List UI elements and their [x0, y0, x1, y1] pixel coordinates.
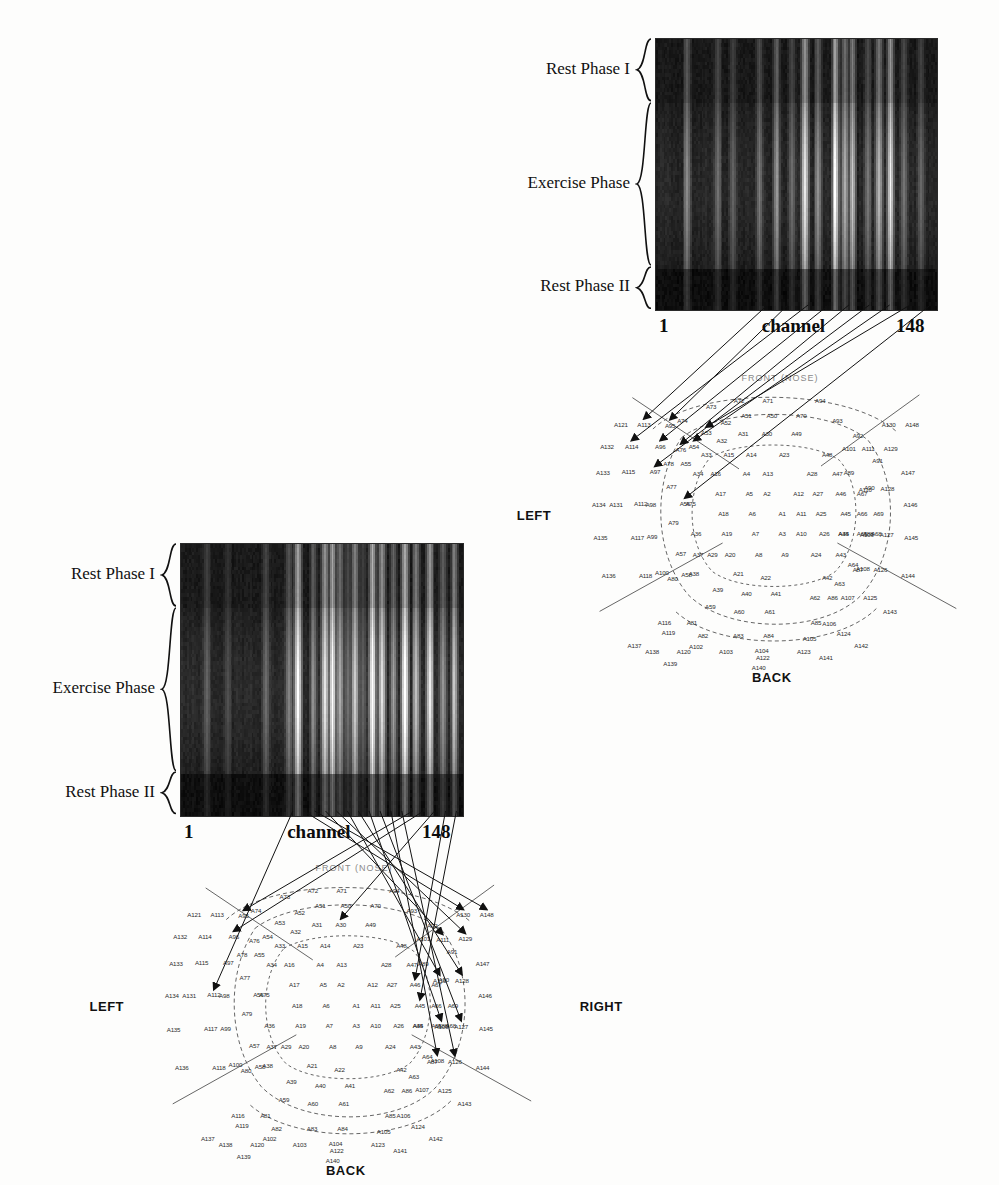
electrode-label-a58[interactable]: A58 — [681, 571, 691, 578]
electrode-label-a63[interactable]: A63 — [834, 580, 844, 587]
electrode-label-a23[interactable]: A23 — [353, 941, 363, 948]
electrode-label-a48[interactable]: A48 — [396, 941, 406, 948]
electrode-label-a32[interactable]: A32 — [290, 928, 300, 935]
electrode-label-a60[interactable]: A60 — [734, 607, 744, 614]
electrode-label-a94[interactable]: A94 — [389, 887, 399, 894]
electrode-label-a89[interactable]: A89 — [844, 468, 854, 475]
electrode-label-a118[interactable]: A118 — [639, 571, 652, 578]
electrode-label-a14[interactable]: A14 — [320, 941, 330, 948]
electrode-label-a26[interactable]: A26 — [393, 1021, 403, 1028]
upper-heatmap[interactable] — [655, 38, 938, 311]
electrode-label-a25[interactable]: A25 — [390, 1001, 400, 1008]
electrode-label-a36[interactable]: A36 — [264, 1021, 274, 1028]
electrode-label-a72[interactable]: A72 — [734, 396, 744, 403]
electrode-label-a148[interactable]: A148 — [905, 420, 919, 427]
electrode-label-a120[interactable]: A120 — [250, 1141, 264, 1148]
electrode-label-a130[interactable]: A130 — [456, 911, 470, 918]
electrode-label-a79[interactable]: A79 — [242, 1010, 252, 1017]
electrode-label-a6[interactable]: A6 — [749, 510, 756, 517]
electrode-label-a71[interactable]: A71 — [336, 887, 346, 894]
electrode-label-a101[interactable]: A101 — [842, 444, 856, 451]
electrode-label-a13[interactable]: A13 — [762, 470, 772, 477]
electrode-label-a31[interactable]: A31 — [738, 430, 748, 437]
electrode-label-a143[interactable]: A143 — [458, 1100, 472, 1107]
electrode-label-a12[interactable]: A12 — [793, 490, 803, 497]
electrode-label-a6[interactable]: A6 — [322, 1001, 329, 1008]
electrode-label-a50[interactable]: A50 — [341, 902, 351, 909]
electrode-label-a79[interactable]: A79 — [668, 518, 678, 525]
electrode-label-a117[interactable]: A117 — [204, 1025, 217, 1032]
electrode-label-a102[interactable]: A102 — [263, 1135, 277, 1142]
electrode-label-a91[interactable]: A91 — [447, 948, 457, 955]
electrode-label-a47[interactable]: A47 — [406, 961, 416, 968]
electrode-label-a48[interactable]: A48 — [822, 451, 832, 458]
electrode-label-a42[interactable]: A42 — [822, 574, 832, 581]
electrode-label-a102[interactable]: A102 — [689, 642, 703, 649]
electrode-label-a107[interactable]: A107 — [415, 1085, 429, 1092]
electrode-label-a80[interactable]: A80 — [667, 574, 677, 581]
electrode-label-a81[interactable]: A81 — [687, 619, 697, 626]
electrode-label-a97[interactable]: A97 — [650, 468, 660, 475]
electrode-label-a99[interactable]: A99 — [220, 1024, 230, 1031]
electrode-label-a115[interactable]: A115 — [622, 468, 635, 475]
electrode-label-a80[interactable]: A80 — [241, 1066, 251, 1073]
electrode-label-a100[interactable]: A100 — [655, 568, 669, 575]
electrode-label-a62[interactable]: A62 — [384, 1086, 394, 1093]
electrode-label-a59[interactable]: A59 — [705, 603, 715, 610]
electrode-label-a29[interactable]: A29 — [707, 551, 717, 558]
electrode-label-a40[interactable]: A40 — [315, 1082, 325, 1089]
electrode-label-a40[interactable]: A40 — [741, 589, 751, 596]
electrode-label-a86[interactable]: A86 — [402, 1086, 412, 1093]
electrode-label-a105[interactable]: A105 — [377, 1128, 391, 1135]
electrode-label-a20[interactable]: A20 — [725, 551, 735, 558]
electrode-label-a29[interactable]: A29 — [281, 1043, 291, 1050]
electrode-label-a61[interactable]: A61 — [338, 1100, 348, 1107]
electrode-label-a148[interactable]: A148 — [480, 911, 494, 918]
electrode-label-a85[interactable]: A85 — [811, 619, 821, 626]
electrode-label-a89[interactable]: A89 — [418, 959, 428, 966]
electrode-label-a45[interactable]: A45 — [415, 1001, 425, 1008]
electrode-label-a103[interactable]: A103 — [719, 647, 733, 654]
electrode-label-a93[interactable]: A93 — [406, 907, 416, 914]
electrode-label-a135[interactable]: A135 — [167, 1026, 181, 1033]
electrode-label-a111[interactable]: A111 — [436, 936, 449, 943]
electrode-label-a19[interactable]: A19 — [295, 1021, 305, 1028]
electrode-label-a106[interactable]: A106 — [822, 619, 836, 626]
electrode-label-a77[interactable]: A77 — [240, 974, 250, 981]
electrode-label-a12[interactable]: A12 — [367, 981, 377, 988]
electrode-label-a53[interactable]: A53 — [275, 919, 285, 926]
electrode-label-a33[interactable]: A33 — [701, 451, 711, 458]
electrode-label-a126[interactable]: A126 — [448, 1057, 462, 1064]
electrode-label-a99[interactable]: A99 — [647, 532, 657, 539]
electrode-label-a28[interactable]: A28 — [807, 470, 817, 477]
electrode-label-a107[interactable]: A107 — [841, 593, 855, 600]
electrode-label-a97[interactable]: A97 — [223, 959, 233, 966]
electrode-label-a105[interactable]: A105 — [803, 635, 817, 642]
electrode-label-a122[interactable]: A122 — [330, 1147, 344, 1154]
electrode-label-a59[interactable]: A59 — [279, 1095, 289, 1102]
electrode-label-a52[interactable]: A52 — [721, 418, 731, 425]
electrode-label-a135[interactable]: A135 — [594, 534, 608, 541]
electrode-label-a60[interactable]: A60 — [308, 1100, 318, 1107]
electrode-label-a39[interactable]: A39 — [712, 585, 722, 592]
electrode-label-a138[interactable]: A138 — [645, 648, 659, 655]
electrode-label-a116[interactable]: A116 — [231, 1111, 244, 1118]
electrode-label-a66[interactable]: A66 — [431, 1001, 441, 1008]
electrode-label-a49[interactable]: A49 — [791, 430, 801, 437]
electrode-label-a22[interactable]: A22 — [334, 1066, 344, 1073]
electrode-label-a49[interactable]: A49 — [365, 920, 375, 927]
electrode-label-a85[interactable]: A85 — [385, 1111, 395, 1118]
electrode-label-a117[interactable]: A117 — [631, 533, 644, 540]
electrode-label-a112[interactable]: A112 — [207, 991, 220, 998]
electrode-label-a1[interactable]: A1 — [352, 1001, 359, 1008]
electrode-label-a110[interactable]: A110 — [433, 977, 446, 984]
electrode-label-a141[interactable]: A141 — [393, 1147, 407, 1154]
electrode-label-a147[interactable]: A147 — [476, 960, 490, 967]
electrode-label-a46[interactable]: A46 — [835, 490, 845, 497]
electrode-label-a9[interactable]: A9 — [781, 551, 788, 558]
electrode-label-a55[interactable]: A55 — [254, 951, 264, 958]
electrode-label-a76[interactable]: A76 — [676, 445, 686, 452]
lower-electrode-montage[interactable]: FRONT (NOSE)LEFTRIGHTBACKA1A2A3A4A5A6A7A… — [148, 862, 560, 1150]
electrode-label-a147[interactable]: A147 — [901, 469, 915, 476]
electrode-label-a113[interactable]: A113 — [211, 911, 224, 918]
